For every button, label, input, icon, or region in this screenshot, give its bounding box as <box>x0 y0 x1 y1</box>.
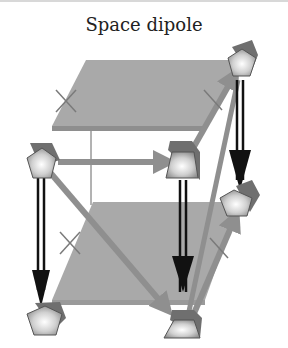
bottom-plane <box>52 202 240 305</box>
bottom-left-node <box>27 302 66 335</box>
top-right-node <box>166 141 200 180</box>
space-dipole-diagram <box>0 0 288 348</box>
back-mid-node <box>220 180 260 216</box>
top-left-node <box>27 143 60 178</box>
arrow-topleft-to-bottomleft <box>32 178 50 307</box>
bottom-right-node <box>164 310 202 338</box>
back-top-node <box>228 40 258 76</box>
